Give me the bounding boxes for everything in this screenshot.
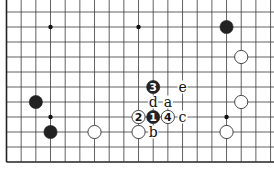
letter-mark-text: c [179,109,187,125]
letter-mark-d: d [148,94,158,110]
stone-number-label: 4 [164,111,172,124]
numbered-white-stone-2: 2 [132,110,145,124]
hoshi-point [136,25,140,29]
black-stone [220,20,233,33]
letter-mark-a: a [163,94,173,110]
black-stone [29,95,42,108]
stone-number-label: 2 [135,111,143,124]
go-board: 1234 abcde [0,0,274,174]
hoshi-point [48,25,52,29]
black-stone [44,125,57,138]
white-stone [235,50,248,63]
letter-mark-c: c [178,109,188,125]
stone-number-label: 3 [149,81,157,94]
white-stone [235,95,248,108]
letter-mark-e: e [178,79,188,95]
stone-number-label: 1 [149,111,157,124]
white-stone [132,125,145,138]
hoshi-point [48,115,52,119]
white-stone [88,125,101,138]
numbered-white-stone-4: 4 [161,110,174,124]
numbered-black-stone-3: 3 [147,80,160,94]
letter-mark-text: a [164,94,172,110]
letter-mark-b: b [148,124,158,140]
letter-mark-text: b [149,124,158,140]
letter-mark-text: d [149,94,158,110]
hoshi-point [224,115,228,119]
white-stone [220,125,233,138]
letter-mark-text: e [178,79,186,95]
numbered-black-stone-1: 1 [147,110,160,124]
